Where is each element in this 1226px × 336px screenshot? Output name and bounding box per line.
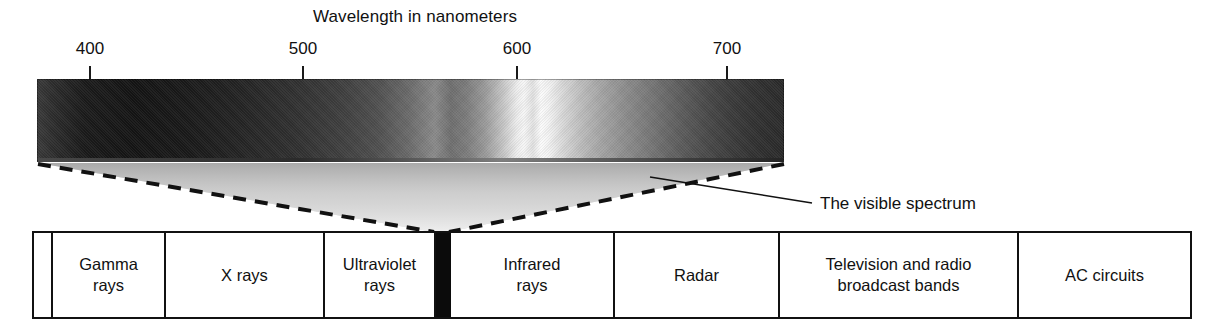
tick-mark-500 — [302, 66, 304, 79]
band-infrared-rays: Infrared rays — [451, 233, 615, 317]
spectrum-band-table: Gamma rays X rays Ultraviolet rays Infra… — [32, 231, 1192, 319]
band-ultraviolet-rays: Ultraviolet rays — [325, 233, 436, 317]
band-television-radio-line-2: broadcast bands — [837, 276, 959, 294]
electromagnetic-spectrum-figure: Wavelength in nanometers 400 500 600 700 — [0, 0, 1226, 336]
dashed-guide-right — [449, 164, 784, 232]
band-ultraviolet-rays-label: Ultraviolet rays — [343, 254, 416, 296]
tick-mark-600 — [516, 66, 518, 79]
band-ac-circuits-label: AC circuits — [1065, 265, 1144, 286]
band-television-radio-line-1: Television and radio — [826, 255, 972, 273]
tick-mark-400 — [89, 66, 91, 79]
band-infrared-rays-line-1: Infrared — [504, 255, 561, 273]
band-ultraviolet-rays-line-1: Ultraviolet — [343, 255, 416, 273]
tick-label-600: 600 — [487, 39, 547, 58]
band-infrared-rays-label: Infrared rays — [504, 254, 561, 296]
band-gamma-rays-line-1: Gamma — [79, 255, 138, 273]
band-leading-spacer — [34, 233, 53, 317]
cone-shading — [38, 163, 784, 232]
band-gamma-rays-line-2: rays — [93, 276, 124, 294]
band-radar: Radar — [615, 233, 780, 317]
band-ultraviolet-rays-line-2: rays — [364, 276, 395, 294]
band-television-radio-label: Television and radio broadcast bands — [826, 254, 972, 296]
band-x-rays: X rays — [166, 233, 325, 317]
axis-title: Wavelength in nanometers — [222, 7, 608, 27]
tick-mark-700 — [726, 66, 728, 79]
tick-label-700: 700 — [697, 39, 757, 58]
visible-spectrum-bottom-edge — [38, 158, 783, 162]
dashed-guide-left — [38, 164, 434, 232]
band-ac-circuits: AC circuits — [1019, 233, 1190, 317]
tick-label-500: 500 — [273, 39, 333, 58]
visible-spectrum-gradient — [37, 79, 784, 162]
callout-leader-line — [650, 177, 812, 203]
tick-label-400: 400 — [60, 39, 120, 58]
band-x-rays-label: X rays — [221, 265, 268, 286]
cone-fill — [38, 163, 784, 232]
band-television-radio: Television and radio broadcast bands — [780, 233, 1019, 317]
visible-spectrum-bar — [37, 79, 784, 165]
band-gamma-rays: Gamma rays — [53, 233, 166, 317]
band-radar-label: Radar — [674, 265, 719, 286]
band-infrared-rays-line-2: rays — [516, 276, 547, 294]
band-visible-spectrum — [436, 233, 451, 317]
callout-label-visible-spectrum: The visible spectrum — [820, 194, 976, 214]
band-gamma-rays-label: Gamma rays — [79, 254, 138, 296]
